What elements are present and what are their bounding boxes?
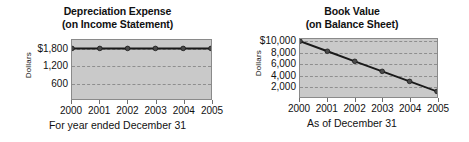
y-axis-label-depreciation: Dollars (24, 52, 33, 78)
x-axis-tick-label: 2005 (427, 103, 449, 114)
chart-title-line-1: Depreciation Expense (0, 5, 235, 18)
y-axis-tick-label: 6,000 (271, 58, 296, 69)
x-axis-tick-mark (355, 98, 356, 102)
x-axis-caption-depreciation: For year ended December 31 (0, 119, 235, 131)
series-line-depreciation (72, 40, 211, 99)
x-axis-tick-mark (184, 100, 185, 104)
x-axis-tick-label: 2001 (88, 105, 110, 116)
x-axis-tick-mark (327, 98, 328, 102)
chart-depreciation-expense: Depreciation Expense (on Income Statemen… (0, 0, 235, 142)
x-axis-tick-mark (127, 100, 128, 104)
data-point-marker (380, 69, 385, 74)
x-axis-tick-mark (71, 100, 72, 104)
x-axis-tick-label: 2002 (343, 103, 365, 114)
plot-area-depreciation (71, 39, 212, 100)
y-axis-tick-label: 4,000 (271, 69, 296, 80)
x-axis-tick-mark (410, 98, 411, 102)
data-point-marker (407, 79, 412, 84)
x-axis-tick-label: 2000 (288, 103, 310, 114)
x-axis-tick-label: 2004 (173, 105, 195, 116)
y-axis-tick-label: 600 (51, 77, 68, 88)
x-axis-tick-mark (299, 98, 300, 102)
data-point-marker (125, 46, 130, 51)
y-axis-tick-label: $10,000 (260, 35, 296, 46)
plot-wrap-bookvalue: $10,0008,0006,0004,0002,000 200020012002… (299, 38, 438, 98)
x-axis-ticks-depreciation: 200020012002200320042005 (61, 100, 222, 116)
x-axis-tick-label: 2002 (116, 105, 138, 116)
chart-title-bookvalue: Book Value (on Balance Sheet) (235, 5, 469, 31)
y-axis-ticks-depreciation: $1,8001,200600 (35, 39, 68, 100)
x-axis-ticks-bookvalue: 200020012002200320042005 (289, 98, 448, 114)
x-axis-tick-mark (212, 100, 213, 104)
plot-wrap-depreciation: $1,8001,200600 200020012002200320042005 (71, 39, 212, 100)
x-axis-tick-mark (438, 98, 439, 102)
chart-title-line-2: (on Balance Sheet) (235, 18, 469, 31)
x-axis-tick-mark (99, 100, 100, 104)
x-axis-tick-mark (156, 100, 157, 104)
data-point-marker (299, 39, 302, 44)
plot-area-bookvalue (299, 38, 438, 98)
x-axis-caption-bookvalue: As of December 31 (235, 117, 469, 129)
chart-title-line-1: Book Value (235, 5, 469, 18)
x-axis-tick-mark (382, 98, 383, 102)
data-point-marker (181, 46, 186, 51)
y-axis-tick-label: $1,800 (37, 42, 68, 53)
series-line-bookvalue (300, 39, 437, 97)
x-axis-tick-label: 2000 (60, 105, 82, 116)
data-point-marker (97, 46, 102, 51)
x-axis-tick-label: 2003 (371, 103, 393, 114)
y-axis-tick-label: 8,000 (271, 46, 296, 57)
chart-title-line-2: (on Income Statement) (0, 18, 235, 31)
x-axis-tick-label: 2004 (399, 103, 421, 114)
data-point-marker (435, 89, 438, 94)
data-point-marker (71, 46, 74, 51)
chart-title-depreciation: Depreciation Expense (on Income Statemen… (0, 5, 235, 31)
x-axis-tick-label: 2003 (144, 105, 166, 116)
data-point-marker (209, 46, 212, 51)
y-axis-tick-label: 1,200 (43, 60, 68, 71)
series-polyline (300, 41, 437, 91)
chart-book-value: Book Value (on Balance Sheet) Dollars $1… (235, 0, 469, 142)
x-axis-tick-label: 2001 (316, 103, 338, 114)
data-point-marker (352, 59, 357, 64)
data-point-marker (325, 49, 330, 54)
data-point-marker (153, 46, 158, 51)
y-axis-ticks-bookvalue: $10,0008,0006,0004,0002,000 (252, 38, 296, 98)
y-axis-tick-label: 2,000 (271, 81, 296, 92)
x-axis-tick-label: 2005 (201, 105, 223, 116)
